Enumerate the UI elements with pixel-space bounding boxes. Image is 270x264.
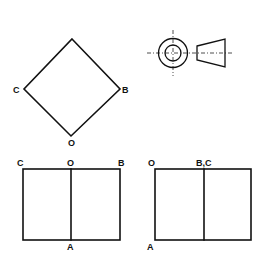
- projection-drawing: C B O C O B A O B,C A: [0, 0, 270, 264]
- side-view-outline: [155, 169, 251, 240]
- diamond-label-b: B: [122, 85, 129, 95]
- side-label-a: A: [147, 242, 154, 252]
- diamond-label-c: C: [13, 85, 20, 95]
- front-label-a: A: [67, 242, 74, 252]
- projection-symbol: [147, 30, 234, 76]
- front-view: C O B A: [17, 158, 125, 252]
- front-label-b: B: [118, 158, 125, 168]
- side-label-bc: B,C: [196, 158, 212, 168]
- side-view: O B,C A: [147, 158, 251, 252]
- diamond-outline: [24, 39, 120, 136]
- diamond-label-o: O: [68, 138, 75, 148]
- side-label-o: O: [148, 158, 155, 168]
- diamond-view: C B O: [13, 39, 129, 148]
- front-label-o: O: [67, 158, 74, 168]
- front-label-c: C: [17, 158, 24, 168]
